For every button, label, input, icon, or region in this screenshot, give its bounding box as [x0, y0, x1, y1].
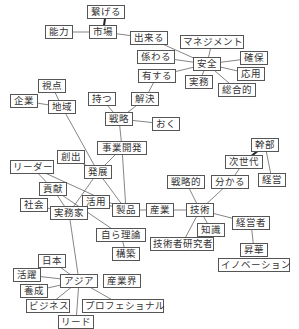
node-oku: おく	[152, 117, 180, 131]
node-yuusuru: 有する	[138, 69, 176, 83]
node-kigyou: 企業	[10, 94, 38, 108]
node-kaiketsu: 解決	[131, 92, 159, 106]
node-jitsumuka: 実務家	[50, 206, 88, 220]
node-kakuho: 確保	[240, 51, 268, 65]
node-sangyou: 産業	[146, 203, 174, 217]
node-gijutsushakenkyusha: 技術者研究者	[150, 237, 214, 251]
node-dekiru: 出来る	[130, 31, 168, 45]
node-nouryoku: 能力	[45, 25, 73, 39]
node-business: ビジネス	[26, 299, 70, 313]
node-leader: リーダー	[10, 160, 54, 174]
node-jigyoukaihatsu: 事業開発	[97, 141, 147, 155]
node-keieisha: 経営者	[232, 216, 270, 230]
node-katsuyaku: 活躍	[13, 268, 41, 282]
node-kanbu: 幹部	[251, 138, 279, 152]
node-kouchiku: 構築	[112, 247, 140, 261]
node-shiten: 視点	[38, 79, 66, 93]
edge-jitsumuka-asia	[69, 213, 79, 281]
node-chishiki: 知識	[197, 223, 225, 237]
node-sangyoukai: 産業界	[103, 274, 141, 288]
node-innovation: イノベーション	[218, 258, 290, 272]
node-lead: リード	[58, 315, 94, 329]
node-soushutsu: 創出	[57, 150, 85, 164]
node-shakai: 社会	[20, 198, 48, 212]
node-sougouteki: 総合的	[218, 83, 256, 97]
node-management: マネジメント	[180, 35, 244, 49]
node-tsunageru: 繋げる	[87, 5, 125, 19]
node-wakaru: 分かる	[211, 175, 249, 189]
node-jirariron: 自ら理論	[96, 228, 146, 242]
node-seihin: 製品	[112, 203, 140, 217]
node-jitsumu: 実務	[185, 75, 213, 89]
node-nihon: 日本	[38, 254, 66, 268]
node-yousei: 養成	[20, 284, 48, 298]
edge-jigyoukaihatsu-seihin	[122, 148, 126, 210]
node-chiiki: 地域	[48, 100, 76, 114]
node-jisedai: 次世代	[225, 155, 263, 169]
node-keiei: 経営	[258, 173, 286, 187]
node-motsu: 持つ	[88, 92, 116, 106]
node-hatten: 発展	[84, 165, 112, 179]
node-ouyou: 応用	[237, 67, 265, 81]
node-gijutsu: 技術	[186, 203, 214, 217]
node-professional: プロフェショナル	[82, 299, 164, 313]
node-kakawaru: 係わる	[137, 50, 175, 64]
node-shijou: 市場	[89, 25, 117, 39]
node-asia: アジア	[60, 274, 98, 288]
node-anzen: 安全	[193, 57, 221, 71]
node-senryakuteki: 戦略的	[167, 175, 205, 189]
node-senryaku: 戦略	[105, 112, 133, 126]
node-shouka: 昇華	[240, 243, 268, 257]
node-kouken: 貢献	[39, 182, 67, 196]
